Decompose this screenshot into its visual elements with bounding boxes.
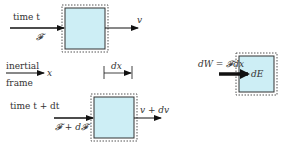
work-label: dW = 𝓕dx — [198, 59, 244, 69]
frame-label-line2: frame — [6, 78, 33, 88]
top-velocity-label: v — [137, 15, 142, 25]
bottom-block — [94, 97, 134, 138]
top-panel: time t 𝓕 v — [10, 5, 142, 52]
displacement-marker: dx — [104, 61, 132, 79]
top-force-label: 𝓕 — [36, 32, 46, 42]
energy-label: dE — [251, 69, 264, 79]
inertial-frame: inertial x frame — [6, 61, 52, 88]
top-block — [65, 8, 105, 49]
bottom-force-label: 𝓕 + d𝓕 — [55, 122, 91, 132]
top-time-label: time t — [13, 12, 40, 22]
energy-panel: dW = 𝓕dx dE — [198, 53, 277, 95]
bottom-time-label: time t + dt — [10, 101, 60, 111]
dx-label: dx — [111, 61, 122, 71]
momentum-energy-diagram: time t 𝓕 v inertial x frame dx time t + … — [0, 0, 282, 147]
bottom-panel: time t + dt 𝓕 + d𝓕 v + dv — [10, 94, 169, 141]
x-axis-label: x — [47, 68, 52, 78]
bottom-velocity-label: v + dv — [140, 105, 169, 115]
frame-label-line1: inertial — [6, 61, 39, 71]
